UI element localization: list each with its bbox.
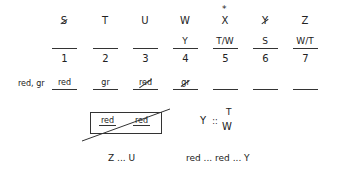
slot-5-top-letter: X <box>210 15 240 26</box>
slot-2-color: gr <box>93 78 118 90</box>
slot-7-top-letter: Z <box>290 15 320 26</box>
star-marker: * <box>222 4 227 14</box>
slot-color-word: red <box>58 78 71 87</box>
slot-letter: Y <box>262 15 268 26</box>
sequence-2: red ... red ... Y <box>186 153 250 163</box>
slot-6-fill: S <box>250 36 280 46</box>
slot-3-color: red <box>133 78 158 90</box>
rule-left: Y <box>200 115 206 126</box>
slot-7-fill: W/T <box>290 36 320 46</box>
slot-2-number: 2 <box>93 53 118 64</box>
slot-4-top-letter: W <box>170 15 200 26</box>
slot-4-number: 4 <box>173 53 198 64</box>
slot-1-top-letter: S <box>49 15 79 26</box>
slot-6-top-letter: Y <box>250 15 280 26</box>
slot-letter: S <box>61 15 67 26</box>
row-label: red, gr <box>18 79 45 88</box>
slot-4-line <box>173 48 198 49</box>
boxed-strike-line <box>80 105 175 145</box>
slot-2-top-letter: T <box>90 15 120 26</box>
slot-letter: X <box>222 15 229 26</box>
slot-color-word: gr <box>101 78 109 87</box>
slot-5-number: 5 <box>213 53 238 64</box>
slot-letter: W <box>180 15 190 26</box>
slot-7-line <box>293 48 318 49</box>
slot-2-line <box>93 48 118 49</box>
slot-5-line <box>213 48 238 49</box>
slot-4-color: gr <box>173 78 198 90</box>
slot-1-line <box>52 48 77 49</box>
slot-3-line <box>133 48 158 49</box>
rule-separator: :: <box>212 117 217 126</box>
slot-letter: T <box>102 15 108 26</box>
slot-4-fill: Y <box>170 36 200 46</box>
sequence-1: Z ... U <box>108 153 135 163</box>
slot-3-top-letter: U <box>130 15 160 26</box>
slot-1-color: red <box>52 78 77 90</box>
rule-bottom: W <box>222 121 232 132</box>
slot-5-color <box>213 78 238 90</box>
slot-6-number: 6 <box>253 53 278 64</box>
rule-top: T <box>226 107 232 117</box>
slot-3-number: 3 <box>133 53 158 64</box>
slot-letter: Z <box>302 15 309 26</box>
slot-7-number: 7 <box>293 53 318 64</box>
slot-color-word: gr <box>181 78 189 87</box>
slot-letter: U <box>141 15 148 26</box>
slot-1-number: 1 <box>52 53 77 64</box>
rule: Y :: <box>200 115 218 126</box>
slot-6-line <box>253 48 278 49</box>
slot-7-color <box>293 78 318 90</box>
slot-color-word: red <box>139 78 152 87</box>
slot-6-color <box>253 78 278 90</box>
slot-5-fill: T/W <box>210 36 240 46</box>
